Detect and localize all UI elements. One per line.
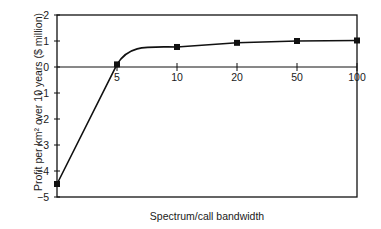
data-point-marker <box>294 38 300 44</box>
x-tick-label: 100 <box>348 71 366 83</box>
plot-area: 210−1−2−3−4−55102050100 <box>37 9 366 203</box>
x-tick-label: 50 <box>291 71 303 83</box>
y-tick-label: 1 <box>43 35 49 47</box>
x-tick-label: 10 <box>171 71 183 83</box>
line-chart: 210−1−2−3−4−55102050100 <box>0 0 381 229</box>
y-tick-label: 0 <box>43 61 49 73</box>
y-axis-label: Profit per km² over 10 years ($ million) <box>32 2 44 202</box>
series-line <box>57 40 357 184</box>
y-tick-label: 2 <box>43 9 49 21</box>
data-point-marker <box>234 40 240 46</box>
data-point-marker <box>114 61 120 67</box>
plot-frame <box>57 15 357 197</box>
data-point-marker <box>54 181 60 187</box>
data-point-marker <box>174 44 180 50</box>
x-axis-label: Spectrum/call bandwidth <box>57 210 357 222</box>
data-point-marker <box>354 37 360 43</box>
x-tick-label: 5 <box>114 71 120 83</box>
x-tick-label: 20 <box>231 71 243 83</box>
